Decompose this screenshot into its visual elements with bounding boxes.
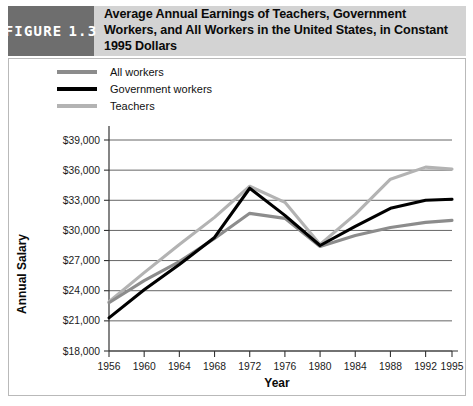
- x-axis-tick-label: 1968: [203, 361, 226, 372]
- y-axis-tick-label: $24,000: [63, 285, 100, 296]
- x-axis-tick-label: 1956: [98, 361, 121, 372]
- figure-tag-word: FIGURE: [5, 24, 63, 38]
- y-axis-tick-label: $18,000: [63, 346, 100, 357]
- y-axis-tick-label: $21,000: [63, 315, 100, 326]
- figure-tag-box: FIGURE 1.3: [8, 6, 94, 56]
- y-axis-tick-label: $36,000: [63, 165, 100, 176]
- figure-title: Average Annual Earnings of Teachers, Gov…: [94, 6, 466, 56]
- figure-header-band: FIGURE 1.3 Average Annual Earnings of Te…: [8, 6, 466, 56]
- figure-title-text: Average Annual Earnings of Teachers, Gov…: [104, 7, 458, 55]
- y-axis-tick-label: $27,000: [63, 255, 100, 266]
- y-axis-ticks: [104, 140, 109, 351]
- chart-frame: All workers Government workers Teachers …: [8, 58, 466, 396]
- y-axis-tick-labels: $18,000$21,000$24,000$27,000$30,000$33,0…: [63, 135, 100, 357]
- series-lines-group: [109, 167, 452, 318]
- x-axis-tick-label: 1988: [379, 361, 402, 372]
- y-axis-tick-label: $33,000: [63, 195, 100, 206]
- figure-tag-number: 1.3: [68, 24, 97, 38]
- x-axis-tick-label: 1995: [441, 361, 464, 372]
- x-axis-ticks: [109, 351, 452, 357]
- chart-plot: $18,000$21,000$24,000$27,000$30,000$33,0…: [9, 59, 467, 397]
- x-axis-tick-label: 1980: [309, 361, 332, 372]
- figure-container: FIGURE 1.3 Average Annual Earnings of Te…: [0, 0, 473, 406]
- gridlines-group: [109, 140, 452, 351]
- x-axis-tick-label: 1972: [238, 361, 261, 372]
- x-axis-tick-label: 1984: [344, 361, 367, 372]
- x-axis-tick-labels: 1956196019641968197219761980198419881992…: [98, 361, 464, 372]
- x-axis-tick-label: 1960: [133, 361, 156, 372]
- x-axis-tick-label: 1992: [414, 361, 437, 372]
- y-axis-tick-label: $30,000: [63, 225, 100, 236]
- series-line-teachers: [109, 167, 452, 302]
- series-line-government-workers: [109, 188, 452, 318]
- x-axis-tick-label: 1976: [273, 361, 296, 372]
- y-axis-title: Annual Salary: [15, 234, 29, 314]
- x-axis-title: Year: [264, 376, 290, 390]
- x-axis-tick-label: 1964: [168, 361, 191, 372]
- y-axis-tick-label: $39,000: [63, 135, 100, 146]
